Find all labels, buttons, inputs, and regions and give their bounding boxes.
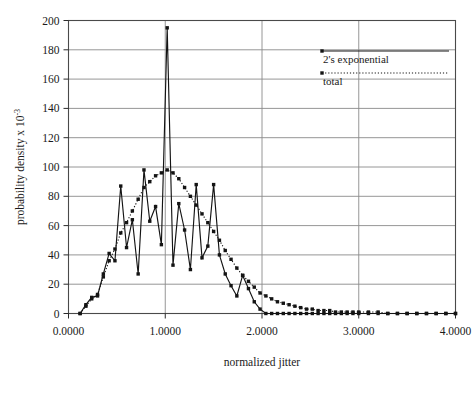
data-point	[386, 312, 389, 315]
data-point	[293, 304, 296, 307]
data-point	[177, 177, 180, 180]
data-point	[357, 310, 360, 313]
data-point	[322, 312, 325, 315]
data-point	[125, 221, 128, 224]
data-point	[311, 312, 314, 315]
y-tick-labels: 020406080100120140160180200	[42, 15, 60, 320]
data-point	[200, 256, 203, 259]
y-axis-title-exponent: -3	[13, 109, 22, 116]
y-tick-label: 0	[54, 308, 60, 320]
data-point	[107, 252, 110, 255]
data-point	[235, 294, 238, 297]
data-point	[264, 312, 267, 315]
data-point	[200, 212, 203, 215]
chart-canvas: 0204060801001201401601802000.00001.00002…	[0, 0, 475, 395]
data-point	[299, 306, 302, 309]
data-point	[282, 302, 285, 305]
data-point	[247, 287, 250, 290]
gridlines	[69, 21, 456, 314]
data-point	[96, 293, 99, 296]
data-point	[224, 272, 227, 275]
x-tick-labels: 0.00001.00002.00003.00004.0000	[53, 325, 472, 337]
data-point	[241, 274, 244, 277]
data-point	[415, 312, 418, 315]
data-point	[376, 310, 379, 313]
data-point	[218, 253, 221, 256]
y-tick-label: 180	[42, 44, 60, 56]
data-point	[229, 284, 232, 287]
y-tick-label: 140	[42, 102, 60, 114]
data-point	[351, 310, 354, 313]
data-point	[235, 266, 238, 269]
data-point	[367, 310, 370, 313]
data-point	[311, 307, 314, 310]
data-point	[218, 239, 221, 242]
data-point	[160, 171, 163, 174]
x-axis-title: normalized jitter	[224, 356, 300, 369]
data-point	[334, 310, 337, 313]
data-point	[171, 263, 174, 266]
data-point	[131, 218, 134, 221]
data-point	[195, 203, 198, 206]
data-point	[299, 312, 302, 315]
data-point	[276, 312, 279, 315]
y-tick-label: 80	[48, 190, 60, 202]
y-tick-label: 60	[48, 220, 60, 232]
data-point	[229, 258, 232, 261]
legend-item-2s-exponential[interactable]: 2's exponential	[320, 49, 449, 65]
data-point	[136, 198, 139, 201]
data-point	[454, 312, 457, 315]
data-point	[305, 312, 308, 315]
data-point	[212, 183, 215, 186]
data-point	[90, 297, 93, 300]
series-line	[80, 28, 455, 314]
data-point	[247, 280, 250, 283]
y-tick-label: 200	[42, 15, 60, 27]
data-point	[177, 202, 180, 205]
data-point	[270, 312, 273, 315]
data-point	[189, 268, 192, 271]
data-point	[102, 275, 105, 278]
data-point	[195, 183, 198, 186]
data-point	[287, 303, 290, 306]
data-point	[165, 26, 168, 29]
data-point	[183, 228, 186, 231]
data-point	[293, 312, 296, 315]
data-point	[328, 312, 331, 315]
data-point	[270, 297, 273, 300]
x-tick-label: 2.0000	[246, 325, 278, 337]
data-point	[206, 221, 209, 224]
data-point	[125, 246, 128, 249]
data-point	[154, 174, 157, 177]
data-point	[131, 209, 134, 212]
y-axis-title: probability density x 10-3	[13, 109, 27, 225]
data-point	[253, 285, 256, 288]
series-2s-exponential	[78, 26, 457, 315]
data-point	[434, 312, 437, 315]
data-point	[142, 186, 145, 189]
data-point	[316, 309, 319, 312]
series-line	[80, 170, 455, 314]
data-point	[322, 309, 325, 312]
data-point	[119, 184, 122, 187]
data-point	[142, 168, 145, 171]
data-point	[84, 304, 87, 307]
data-point	[148, 180, 151, 183]
data-point	[212, 230, 215, 233]
data-point	[119, 231, 122, 234]
chart-figure: 0204060801001201401601802000.00001.00002…	[0, 0, 475, 395]
data-point	[253, 300, 256, 303]
legend-label: total	[323, 75, 343, 87]
data-point	[154, 205, 157, 208]
data-point	[328, 309, 331, 312]
y-tick-label: 20	[48, 278, 60, 290]
data-point	[405, 312, 408, 315]
data-point	[282, 312, 285, 315]
data-point	[136, 272, 139, 275]
data-point	[305, 307, 308, 310]
series-group	[78, 26, 457, 315]
data-point	[206, 244, 209, 247]
data-point	[287, 312, 290, 315]
x-tick-label: 1.0000	[149, 325, 181, 337]
data-point	[160, 243, 163, 246]
